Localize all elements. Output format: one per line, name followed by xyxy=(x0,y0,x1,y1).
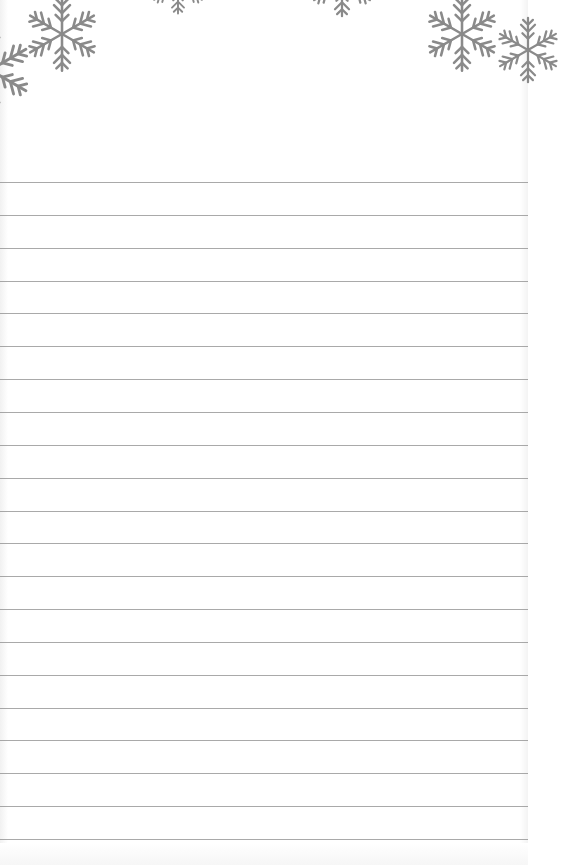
ruled-line xyxy=(0,642,528,643)
ruled-line xyxy=(0,839,528,840)
ruled-line xyxy=(0,773,528,774)
ruled-line xyxy=(0,346,528,347)
ruled-line xyxy=(0,806,528,807)
page-bottom-edge xyxy=(0,843,528,865)
ruled-line xyxy=(0,511,528,512)
ruled-line xyxy=(0,281,528,282)
ruled-line xyxy=(0,609,528,610)
ruled-line xyxy=(0,708,528,709)
ruled-line xyxy=(0,543,528,544)
ruled-line xyxy=(0,675,528,676)
ruled-line xyxy=(0,445,528,446)
ruled-line xyxy=(0,576,528,577)
ruled-line xyxy=(0,215,528,216)
ruled-line xyxy=(0,313,528,314)
ruled-line xyxy=(0,248,528,249)
ruled-line xyxy=(0,379,528,380)
ruled-line xyxy=(0,412,528,413)
ruled-line xyxy=(0,740,528,741)
ruled-line xyxy=(0,478,528,479)
ruled-line xyxy=(0,182,528,183)
